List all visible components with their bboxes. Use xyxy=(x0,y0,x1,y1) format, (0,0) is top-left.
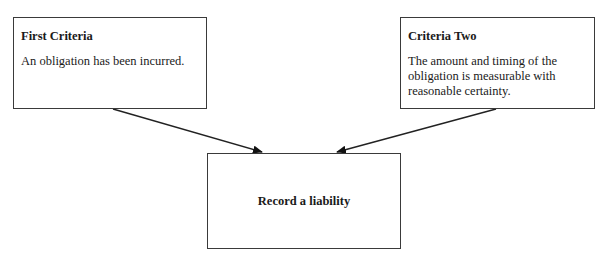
first-criteria-title: First Criteria xyxy=(21,29,206,44)
first-criteria-body: An obligation has been incurred. xyxy=(21,54,206,69)
criteria-two-box: Criteria Two The amount and timing of th… xyxy=(400,17,595,109)
record-liability-box: Record a liability xyxy=(207,153,401,249)
arrow-first-to-result xyxy=(113,109,262,152)
record-liability-label: Record a liability xyxy=(258,194,350,209)
criteria-two-title: Criteria Two xyxy=(408,29,594,44)
first-criteria-box: First Criteria An obligation has been in… xyxy=(13,17,207,109)
criteria-two-body: The amount and timing of the obligation … xyxy=(408,54,594,99)
arrow-second-to-result xyxy=(337,109,496,152)
